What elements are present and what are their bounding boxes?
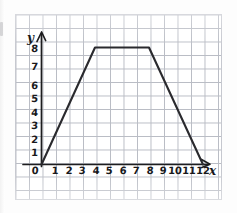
y-tick-label-2: 2 <box>20 135 39 145</box>
trapezoid-graph-line <box>42 48 204 165</box>
x-tick-label-8: 8 <box>142 166 157 176</box>
y-tick-label-4: 4 <box>20 108 39 118</box>
x-tick-label-7: 7 <box>129 166 144 176</box>
y-tick-label-1: 1 <box>20 148 39 158</box>
y-tick-label-8: 8 <box>20 44 39 54</box>
origin-tick-label: 0 <box>28 166 43 176</box>
x-tick-label-12: 12 <box>194 166 211 176</box>
x-tick-label-6: 6 <box>115 166 130 176</box>
y-tick-label-5: 5 <box>20 94 39 104</box>
x-tick-label-4: 4 <box>88 166 103 176</box>
x-tick-label-1: 1 <box>48 166 63 176</box>
y-tick-label-3: 3 <box>20 121 39 131</box>
x-tick-label-2: 2 <box>61 166 76 176</box>
x-tick-label-3: 3 <box>75 166 90 176</box>
y-tick-label-6: 6 <box>20 81 39 91</box>
x-tick-label-5: 5 <box>102 166 117 176</box>
figure-canvas: y x 0 1 2 3 4 5 6 7 8 1 2 3 4 5 6 7 8 9 … <box>0 0 237 213</box>
y-tick-label-7: 7 <box>20 62 39 72</box>
